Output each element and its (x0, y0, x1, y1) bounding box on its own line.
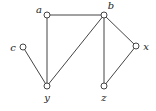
edges-group (23, 15, 136, 86)
node-z-label: z (100, 92, 107, 103)
edge-b-x (104, 15, 136, 46)
node-y-circle (44, 83, 50, 89)
node-c-circle (20, 44, 26, 50)
edge-c-y (23, 47, 47, 86)
node-c: c (10, 42, 26, 53)
node-z: z (100, 83, 107, 103)
node-y: y (43, 83, 50, 103)
node-x: x (133, 41, 149, 52)
node-b-circle (101, 12, 107, 18)
node-b-label: b (108, 0, 114, 11)
node-z-circle (101, 83, 107, 89)
node-a-label: a (36, 4, 42, 15)
node-y-label: y (43, 92, 50, 103)
node-x-label: x (143, 41, 149, 52)
node-a-circle (44, 12, 50, 18)
node-a: a (36, 4, 50, 18)
node-b: b (101, 0, 114, 18)
graph-diagram: a b c x y z (0, 0, 156, 111)
node-c-label: c (10, 42, 16, 53)
node-x-circle (133, 43, 139, 49)
edge-y-b (47, 15, 104, 86)
edge-x-z (104, 46, 136, 86)
